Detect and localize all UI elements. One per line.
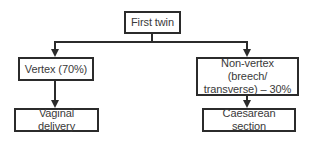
node-label-line1: Non-vertex (breech/	[201, 57, 294, 83]
node-label: Vertex (70%)	[25, 63, 87, 76]
node-label-line2: transverse) – 30%	[204, 83, 292, 96]
flowchart: First twin Vertex (70%) Non-vertex (bree…	[0, 0, 312, 143]
node-vaginal-delivery: Vaginal delivery	[14, 108, 99, 132]
arrowhead-icon	[51, 49, 59, 57]
node-caesarean-section: Caesarean section	[202, 108, 296, 132]
node-first-twin: First twin	[124, 11, 181, 34]
node-label: Caesarean section	[207, 107, 291, 133]
arrowhead-icon	[243, 49, 251, 57]
node-label: Vaginal delivery	[19, 107, 94, 133]
node-label: First twin	[131, 16, 174, 29]
node-vertex: Vertex (70%)	[18, 57, 94, 81]
node-non-vertex: Non-vertex (breech/ transverse) – 30%	[196, 57, 299, 96]
